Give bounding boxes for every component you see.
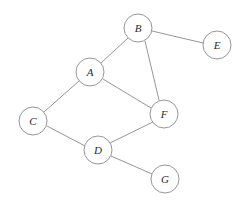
edge-c-d xyxy=(47,126,85,146)
edge-a-c xyxy=(44,81,79,112)
node-c[interactable]: C xyxy=(19,107,47,135)
node-label-d: D xyxy=(93,144,102,156)
edge-b-e xyxy=(152,31,203,43)
node-label-e: E xyxy=(213,39,221,51)
edge-a-b xyxy=(101,38,128,63)
node-d[interactable]: D xyxy=(84,136,112,164)
edge-layer xyxy=(44,31,203,174)
graph-diagram: A B C D E F G xyxy=(0,0,243,209)
edge-b-f xyxy=(145,41,159,100)
node-b[interactable]: B xyxy=(124,14,152,42)
node-label-f: F xyxy=(160,108,168,120)
node-label-b: B xyxy=(135,22,142,34)
node-g[interactable]: G xyxy=(151,165,179,193)
node-f[interactable]: F xyxy=(150,100,178,128)
edge-a-f xyxy=(103,79,151,108)
edge-d-f xyxy=(110,122,153,143)
node-label-a: A xyxy=(86,66,94,78)
node-a[interactable]: A xyxy=(76,58,104,86)
edge-d-g xyxy=(111,156,152,174)
node-label-c: C xyxy=(29,115,37,127)
node-e[interactable]: E xyxy=(203,31,231,59)
node-label-g: G xyxy=(161,173,169,185)
